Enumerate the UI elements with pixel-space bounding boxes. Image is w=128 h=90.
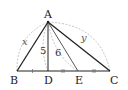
label-y: y: [80, 32, 87, 43]
label-x: x: [22, 36, 28, 47]
label-D: D: [44, 74, 53, 87]
label-6: 6: [55, 47, 61, 58]
geometry-diagram: A B D E C x y 5 6: [0, 0, 128, 90]
triangle-figure: A B D E C x y 5 6: [0, 0, 128, 90]
label-A: A: [43, 8, 53, 21]
label-B: B: [10, 74, 18, 87]
label-5: 5: [40, 45, 46, 56]
label-C: C: [110, 74, 118, 87]
vertex-A-dot: [47, 21, 49, 23]
label-E: E: [75, 74, 83, 87]
segment-AE: [48, 22, 78, 71]
